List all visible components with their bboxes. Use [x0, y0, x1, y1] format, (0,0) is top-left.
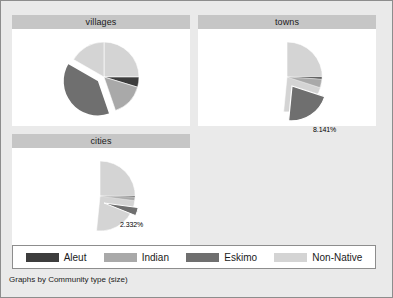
panel-cities: cities 2.332% — [12, 134, 190, 245]
legend-item-non-native: Non-Native — [274, 252, 362, 263]
pie-label-towns: 8.141% — [313, 126, 336, 133]
pie-chart-figure: villages 34.67% towns — [0, 0, 393, 298]
pie-villages — [12, 29, 190, 126]
slice-non-native — [104, 42, 139, 77]
legend-label-non-native: Non-Native — [312, 252, 362, 263]
legend-label-indian: Indian — [142, 252, 169, 263]
panel-villages: villages 34.67% — [12, 15, 190, 126]
legend-swatch-eskimo — [186, 253, 219, 262]
figure-caption: Graphs by Community type (size) — [9, 275, 128, 284]
legend-swatch-indian — [104, 253, 137, 262]
pie-label-cities: 2.332% — [120, 221, 143, 228]
panel-title-cities: cities — [12, 134, 190, 148]
legend-item-indian: Indian — [104, 252, 169, 263]
plot-area-villages: 34.67% — [12, 29, 190, 126]
legend: Aleut Indian Eskimo Non-Native — [12, 245, 376, 269]
legend-label-aleut: Aleut — [64, 252, 87, 263]
pie-towns — [198, 29, 376, 126]
plot-area-cities: 2.332% — [12, 148, 190, 245]
legend-label-eskimo: Eskimo — [224, 252, 257, 263]
legend-item-aleut: Aleut — [26, 252, 87, 263]
legend-item-eskimo: Eskimo — [186, 252, 257, 263]
pie-cities — [12, 148, 190, 245]
plot-area-towns: 8.141% — [198, 29, 376, 126]
legend-swatch-non-native — [274, 253, 307, 262]
legend-swatch-aleut — [26, 253, 59, 262]
panel-title-towns: towns — [198, 15, 376, 29]
panel-title-villages: villages — [12, 15, 190, 29]
panel-towns: towns 8.141% — [198, 15, 376, 126]
